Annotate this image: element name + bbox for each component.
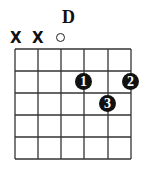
finger-1-dot: 1 — [75, 73, 92, 90]
finger-2-dot: 2 — [122, 73, 139, 90]
finger-3-dot: 3 — [99, 95, 116, 112]
